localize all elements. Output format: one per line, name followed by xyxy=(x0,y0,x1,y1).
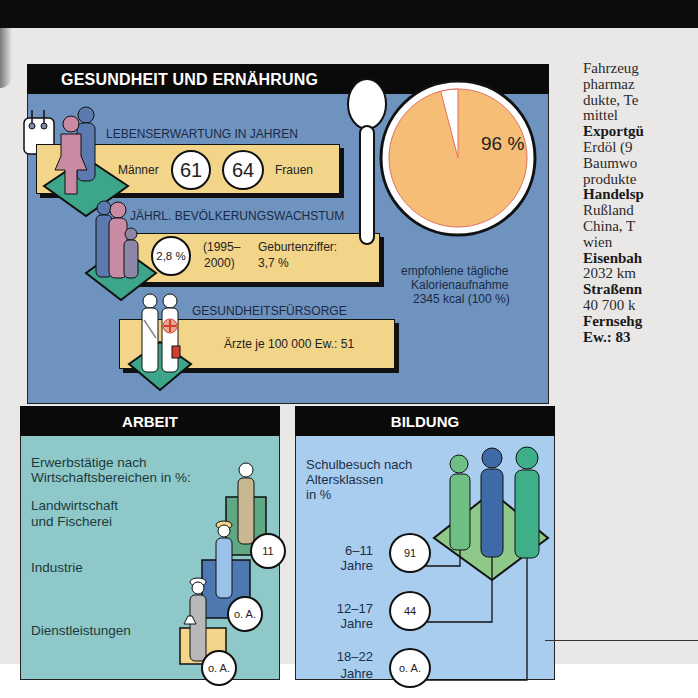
calorie-pie-chart xyxy=(378,78,538,238)
birth-rate-label: Geburtenziffer: xyxy=(258,240,337,254)
education-panel-title: BILDUNG xyxy=(295,406,555,436)
work-panel-title: ARBEIT xyxy=(20,406,280,436)
life-expectancy-title: LEBENSERWARTUNG IN JAHREN xyxy=(106,127,298,141)
text-heading: Ew.: 83 xyxy=(583,330,644,346)
calorie-caption-line3: 2345 kcal (100 %) xyxy=(413,292,510,306)
sector-industry: Industrie xyxy=(31,560,83,575)
top-dark-border xyxy=(0,0,698,28)
sidebar-text-column: Fahrzeug pharmaz dukte, Te mittel Export… xyxy=(583,61,644,345)
text-line: China, T xyxy=(583,219,644,235)
students-figures-illustration xyxy=(430,444,554,654)
women-label: Frauen xyxy=(275,163,313,177)
text-line: produkte xyxy=(583,172,644,188)
healthcare-title: GESUNDHEITSFÜRSORGE xyxy=(192,304,347,318)
sector-services: Dienstleistungen xyxy=(31,623,131,638)
work-intro-line1: Erwerbstätige nach xyxy=(31,455,147,470)
sector-agriculture-line1: Landwirtschaft xyxy=(31,498,118,513)
page-curl-shadow xyxy=(0,28,12,88)
text-line: mittel xyxy=(583,108,644,124)
text-line: Baumwo xyxy=(583,156,644,172)
education-intro-line2: Altersklassen xyxy=(306,472,383,487)
text-line: 40 700 k xyxy=(583,298,644,314)
calorie-percent-label: 96 % xyxy=(481,133,524,155)
text-line: Erdöl (9 xyxy=(583,140,644,156)
attendance-6-11-value: 91 xyxy=(389,533,431,573)
men-life-expectancy-value: 61 xyxy=(171,150,211,190)
text-line: wien xyxy=(583,235,644,251)
age-6-11-line2: Jahre xyxy=(313,558,373,573)
men-label: Männer xyxy=(118,163,159,177)
age-18-22-line2: Jahre xyxy=(313,666,373,681)
population-growth-value: 2,8 % xyxy=(151,236,191,276)
calorie-caption-line1: empfohlene tägliche xyxy=(401,264,508,278)
attendance-18-22-value: o. A. xyxy=(389,648,431,688)
population-growth-title: JÄHRL. BEVÖLKERUNGSWACHSTUM xyxy=(130,209,344,223)
education-intro-line3: in % xyxy=(306,487,331,502)
education-intro-line1: Schulbesuch nach xyxy=(306,457,412,472)
text-line: Rußland xyxy=(583,203,644,219)
attendance-12-17-value: 44 xyxy=(389,591,431,631)
age-6-11-line1: 6–11 xyxy=(313,543,373,558)
text-heading: Handelsp xyxy=(583,187,644,203)
age-18-22-line1: 18–22 xyxy=(313,649,373,664)
age-12-17-line1: 12–17 xyxy=(313,601,373,616)
text-heading: Eisenbah xyxy=(583,251,644,267)
period-line1: (1995– xyxy=(203,240,240,254)
page-divider-line xyxy=(545,640,698,641)
text-heading: Straßenn xyxy=(583,282,644,298)
work-intro-line2: Wirtschaftsbereichen in %: xyxy=(31,470,191,485)
birth-rate-value: 3,7 % xyxy=(258,256,289,270)
text-heading: Fernsehg xyxy=(583,314,644,330)
text-line: pharmaz xyxy=(583,77,644,93)
text-heading: Exportgü xyxy=(583,124,644,140)
agriculture-value: 11 xyxy=(250,533,286,569)
doctor-figures-icon xyxy=(140,292,182,374)
doctors-per-100000: Ärzte je 100 000 Ew.: 51 xyxy=(224,337,354,351)
age-12-17-line2: Jahre xyxy=(313,616,373,631)
text-line: Fahrzeug xyxy=(583,61,644,77)
calorie-caption-line2: Kalorienaufnahme xyxy=(411,278,508,292)
text-line: 2032 km xyxy=(583,266,644,282)
services-value: o. A. xyxy=(201,650,237,686)
industry-value: o. A. xyxy=(227,596,263,632)
women-life-expectancy-value: 64 xyxy=(222,150,264,190)
period-line2: 2000) xyxy=(204,256,235,270)
sector-agriculture-line2: und Fischerei xyxy=(31,514,112,529)
text-line: dukte, Te xyxy=(583,93,644,109)
man-woman-figures-icon xyxy=(56,106,100,198)
